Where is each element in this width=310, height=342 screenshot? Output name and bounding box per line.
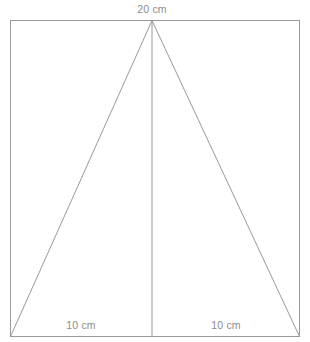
diagram-canvas [0,0,310,342]
triangle-right-side [152,21,300,337]
dimension-label-apex: 20 cm [0,3,304,15]
dimension-label-base-left: 10 cm [10,319,152,331]
dimension-label-base-right: 10 cm [152,319,300,331]
bounding-rectangle [11,21,300,337]
triangle-left-side [11,21,153,337]
geometry-figure: 20 cm 10 cm 10 cm [0,0,310,342]
